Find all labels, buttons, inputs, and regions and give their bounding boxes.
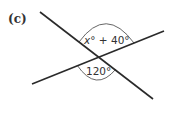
line-1 — [40, 12, 153, 99]
angle-constant: 40° — [111, 34, 130, 46]
angle-diagram: (c) x° + 40° 120° — [0, 0, 172, 113]
plus-sign: + — [95, 34, 110, 46]
top-angle-label: x° + 40° — [83, 34, 130, 46]
bottom-angle-label: 120° — [86, 65, 111, 77]
part-label: (c) — [8, 12, 27, 26]
